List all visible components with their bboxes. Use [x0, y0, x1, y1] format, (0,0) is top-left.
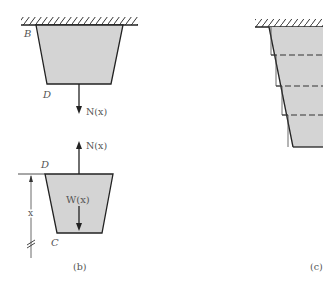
- figure-b-upper: B D N(x): [21, 17, 138, 117]
- tapered-bar: [269, 27, 323, 147]
- figure-c: (c): [255, 19, 323, 272]
- dimension-label: x: [28, 208, 33, 218]
- arrow-down-icon: [76, 106, 82, 114]
- point-d-label: D: [42, 89, 51, 100]
- dimension-arrow-icon: [29, 175, 33, 182]
- bar-segment-bd: [36, 25, 123, 84]
- force-label-upper: N(x): [86, 106, 107, 117]
- point-b-label: B: [23, 28, 31, 39]
- point-d-label-lower: D: [40, 159, 49, 170]
- force-label-lower: N(x): [86, 140, 107, 151]
- caption-c: (c): [310, 261, 323, 272]
- weight-label: W(x): [66, 194, 90, 205]
- figure-b-lower: N(x) D W(x) C x (b): [18, 140, 113, 272]
- arrow-up-icon: [76, 141, 82, 149]
- caption-b: (b): [73, 261, 87, 272]
- support-hatch: [21, 17, 138, 25]
- diagram-canvas: B D N(x) N(x) D W(x) C x (b): [0, 0, 323, 283]
- support-hatch: [255, 19, 323, 27]
- point-c-label: C: [51, 237, 59, 248]
